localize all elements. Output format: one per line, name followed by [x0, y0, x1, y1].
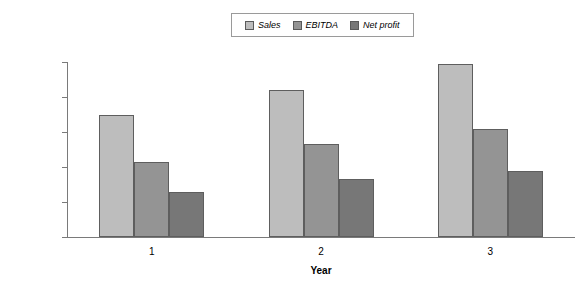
- x-axis-line: [67, 237, 575, 238]
- bar-series-container: [67, 62, 575, 237]
- x-axis-tick-label: 2: [301, 246, 341, 257]
- x-axis-tick-label: 1: [132, 246, 172, 257]
- plot-area: $5,000,000$4,000,000$3,000,000$2,000,000…: [67, 62, 575, 237]
- x-axis-title: Year: [67, 265, 575, 276]
- legend-swatch-ebitda: [293, 21, 302, 30]
- bar: [99, 115, 134, 238]
- legend-swatch-net-profit: [350, 21, 359, 30]
- bar: [304, 144, 339, 237]
- bar: [438, 64, 473, 237]
- legend-label-ebitda: EBITDA: [306, 21, 339, 30]
- legend-entry-net-profit: Net profit: [350, 21, 400, 30]
- legend-label-net-profit: Net profit: [363, 21, 400, 30]
- bar-group: [438, 62, 543, 237]
- bar: [473, 129, 508, 238]
- bar-group: [269, 62, 374, 237]
- legend-swatch-sales: [245, 21, 254, 30]
- bar: [269, 90, 304, 237]
- bar-chart: Sales EBITDA Net profit $5,000,000$4,000…: [0, 0, 582, 284]
- bar: [134, 162, 169, 237]
- bar: [508, 171, 543, 238]
- y-axis-tick: [62, 237, 67, 238]
- x-axis-tick-label: 3: [470, 246, 510, 257]
- bar-group: [99, 62, 204, 237]
- bar: [169, 192, 204, 238]
- legend-label-sales: Sales: [258, 21, 281, 30]
- chart-legend: Sales EBITDA Net profit: [231, 13, 414, 37]
- legend-entry-ebitda: EBITDA: [293, 21, 339, 30]
- bar: [339, 179, 374, 237]
- legend-entry-sales: Sales: [245, 21, 281, 30]
